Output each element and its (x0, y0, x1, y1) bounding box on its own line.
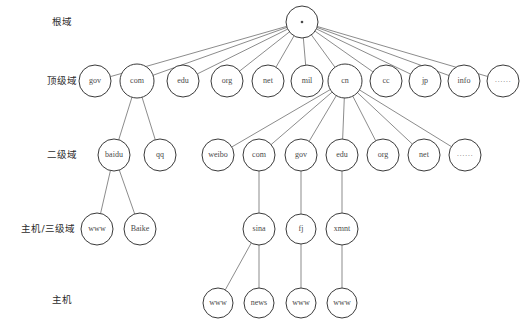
node-tld-jp[interactable]: jp (409, 65, 441, 97)
node-label-h3-xmnt: xmnt (334, 224, 351, 233)
node-tld-info[interactable]: info (448, 65, 480, 97)
node-h-www3[interactable]: www (327, 288, 357, 318)
node-label-sld-edu: edu (336, 150, 348, 159)
edge-tld-cn-to-sld-gov (309, 96, 336, 142)
node-h3-www[interactable]: www (81, 213, 113, 245)
node-label-h3-baike: Baike (131, 224, 150, 233)
node-label-tld-com: com (130, 76, 145, 85)
node-label-h3-sina: sina (253, 224, 266, 233)
node-sld-weibo[interactable]: weibo (202, 139, 234, 171)
node-label-h-www3: www (333, 298, 351, 307)
node-label-h3-fj: fj (299, 224, 304, 233)
node-label-h-www1: www (209, 298, 227, 307)
node-tld-org[interactable]: org (211, 65, 243, 97)
node-tld-com[interactable]: com (120, 64, 154, 98)
edge-tld-cn-to-sld-more (359, 90, 451, 147)
node-tld-net[interactable]: net (252, 65, 284, 97)
node-sld-more[interactable]: ······ (449, 139, 481, 171)
node-sld-org[interactable]: org (367, 139, 399, 171)
edge-sld-baidu-to-h3-baike (119, 170, 134, 214)
dns-hierarchy-diagram: govcomeduorgnetmilcnccjpinfo······baiduq… (0, 0, 523, 329)
node-h-www1[interactable]: www (203, 288, 233, 318)
node-tld-edu[interactable]: edu (167, 65, 199, 97)
node-tld-cn[interactable]: cn (328, 64, 362, 98)
node-label-tld-org: org (222, 76, 233, 85)
node-sld-com[interactable]: com (243, 139, 275, 171)
node-h3-baike[interactable]: Baike (124, 213, 156, 245)
node-label-tld-mil: mil (302, 76, 313, 85)
node-label-tld-gov: gov (89, 76, 101, 85)
edge-tld-cn-to-sld-net (357, 93, 412, 144)
node-label-h-news: news (251, 298, 267, 307)
node-sld-net[interactable]: net (408, 139, 440, 171)
node-label-sld-com: com (252, 150, 267, 159)
node-label-tld-edu: edu (177, 76, 189, 85)
node-sld-qq[interactable]: qq (144, 139, 176, 171)
node-root[interactable] (286, 6, 318, 38)
node-label-tld-jp: jp (421, 76, 428, 85)
node-sld-gov[interactable]: gov (285, 139, 317, 171)
node-tld-mil[interactable]: mil (291, 65, 323, 97)
node-label-sld-more: ······ (457, 152, 473, 160)
edge-tld-com-to-sld-qq (142, 97, 155, 139)
node-label-h-www2: www (292, 298, 310, 307)
node-label-sld-org: org (378, 150, 389, 159)
row-label-tld: 顶级域 (47, 75, 77, 86)
node-label-tld-cc: cc (382, 76, 390, 85)
node-h3-xmnt[interactable]: xmnt (326, 213, 358, 245)
node-label-sld-weibo: weibo (208, 150, 228, 159)
node-label-sld-baidu: baidu (105, 150, 123, 159)
node-h-news[interactable]: news (244, 288, 274, 318)
node-sld-baidu[interactable]: baidu (98, 139, 130, 171)
edge-tld-cn-to-sld-org (353, 96, 376, 141)
row-label-root: 根域 (52, 16, 72, 27)
edge-sld-baidu-to-h3-www (101, 171, 111, 214)
node-label-sld-qq: qq (156, 150, 164, 159)
edge-root-to-tld-cn (311, 35, 335, 67)
node-label-sld-gov: gov (295, 150, 307, 159)
node-label-tld-net: net (263, 76, 274, 85)
node-label-tld-more: ······ (495, 78, 511, 86)
edge-root-to-tld-jp (316, 29, 410, 74)
node-tld-cc[interactable]: cc (370, 65, 402, 97)
node-label-tld-info: info (458, 76, 471, 85)
diagram-canvas: govcomeduorgnetmilcnccjpinfo······baiduq… (0, 0, 523, 329)
node-h3-sina[interactable]: sina (243, 213, 275, 245)
node-label-sld-net: net (419, 150, 430, 159)
node-tld-more[interactable]: ······ (487, 65, 519, 97)
node-h-www2[interactable]: www (286, 288, 316, 318)
node-tld-gov[interactable]: gov (79, 65, 111, 97)
nodes-layer: govcomeduorgnetmilcnccjpinfo······baiduq… (79, 6, 519, 318)
root-dot-icon (301, 21, 304, 24)
row-label-sld: 二级域 (47, 149, 77, 160)
node-h3-fj[interactable]: fj (286, 214, 316, 244)
node-label-tld-cn: cn (341, 76, 349, 85)
edge-tld-cn-to-sld-edu (343, 98, 345, 139)
edge-h3-sina-to-h-www1 (225, 243, 251, 290)
node-label-h3-www: www (88, 224, 106, 233)
row-label-host: 主机 (52, 294, 72, 305)
row-labels-layer: 根域顶级域二级域主机/三级域主机 (21, 16, 77, 305)
edge-tld-cn-to-sld-weibo (232, 90, 330, 147)
node-sld-edu[interactable]: edu (326, 139, 358, 171)
edge-root-to-tld-mil (303, 38, 305, 65)
edge-tld-com-to-sld-baidu (119, 97, 132, 139)
row-label-host3: 主机/三级域 (21, 223, 74, 234)
